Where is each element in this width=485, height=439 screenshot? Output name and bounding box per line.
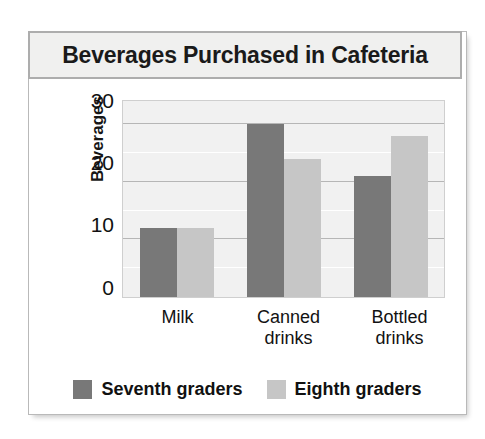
legend-label: Seventh graders bbox=[101, 379, 242, 400]
bar-group-milk bbox=[140, 101, 214, 297]
bar-eighth-milk bbox=[177, 228, 214, 297]
bars-layer bbox=[123, 101, 444, 297]
legend-swatch-icon bbox=[267, 380, 286, 399]
bar-seventh-milk bbox=[140, 228, 177, 297]
bar-seventh-bottled bbox=[354, 176, 391, 297]
x-tick-line: Bottled bbox=[371, 307, 427, 327]
x-tick-line: drinks bbox=[375, 328, 423, 348]
bar-group-canned-drinks bbox=[247, 101, 321, 297]
bar-group-bottled-drinks bbox=[354, 101, 428, 297]
bar-eighth-canned bbox=[284, 159, 321, 297]
x-tick-label-bottled-drinks: Bottled drinks bbox=[347, 307, 452, 349]
bar-seventh-canned bbox=[247, 124, 284, 297]
y-axis-tick-labels: 30 20 10 0 bbox=[74, 100, 120, 305]
y-tick-label: 0 bbox=[102, 276, 114, 297]
y-tick-label: 30 bbox=[91, 90, 114, 111]
x-tick-label-milk: Milk bbox=[125, 307, 230, 349]
x-tick-line: Milk bbox=[162, 307, 194, 327]
plot-area bbox=[122, 100, 445, 298]
chart-legend: Seventh graders Eighth graders bbox=[28, 379, 467, 400]
x-tick-line: drinks bbox=[264, 328, 312, 348]
y-tick-label: 10 bbox=[91, 214, 114, 235]
y-tick-label: 20 bbox=[91, 152, 114, 173]
bar-eighth-bottled bbox=[391, 136, 428, 297]
legend-swatch-icon bbox=[73, 380, 92, 399]
x-axis-tick-labels: Milk Canned drinks Bottled drinks bbox=[122, 307, 455, 349]
plot-wrapper: Beverages 30 20 10 0 bbox=[60, 100, 450, 305]
chart-title-bar: Beverages Purchased in Cafeteria bbox=[28, 31, 462, 79]
legend-label: Eighth graders bbox=[295, 379, 422, 400]
legend-item-seventh-graders: Seventh graders bbox=[73, 379, 242, 400]
x-tick-line: Canned bbox=[257, 307, 320, 327]
x-tick-label-canned-drinks: Canned drinks bbox=[236, 307, 341, 349]
page-title: Beverages Purchased in Cafeteria bbox=[62, 42, 428, 69]
legend-item-eighth-graders: Eighth graders bbox=[267, 379, 422, 400]
